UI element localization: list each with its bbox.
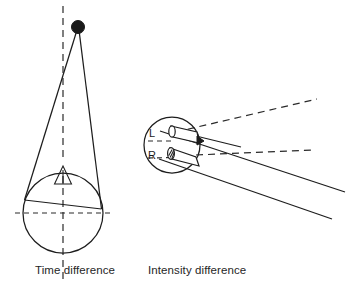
left-ear-label: L [149, 127, 155, 139]
sound-path-right-ear [79, 30, 102, 209]
ray-mid-dashed [196, 150, 312, 155]
binaural-cues-diagram: L R Time difference Intensity difference [0, 0, 360, 287]
caption-intensity-difference: Intensity difference [148, 264, 246, 276]
sound-source-dot [72, 21, 85, 34]
panel-intensity-difference: L R [144, 99, 345, 219]
right-ear-label: R [148, 149, 156, 161]
panel-time-difference [15, 6, 112, 283]
figure-root: L R Time difference Intensity difference [0, 0, 360, 287]
caption-time-difference: Time difference [35, 264, 115, 276]
ray-lower-solid [159, 159, 332, 219]
ray-upper-dashed [176, 99, 317, 132]
left-ear-canal-opening [169, 126, 175, 137]
